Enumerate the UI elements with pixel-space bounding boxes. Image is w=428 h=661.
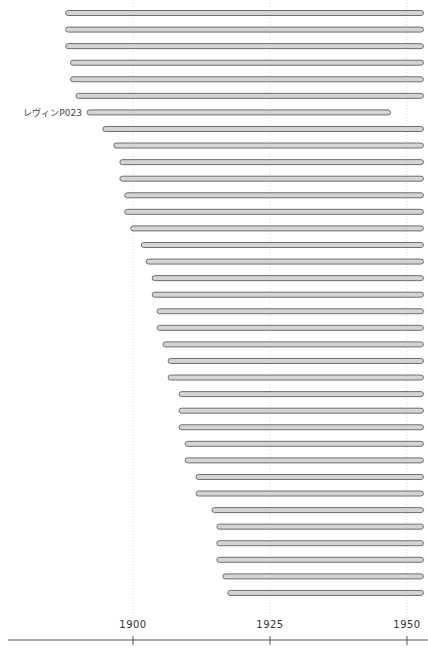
range-bar xyxy=(228,590,424,595)
timeline-chart: レヴィンP023 190019251950 xyxy=(0,0,428,661)
range-bar xyxy=(87,110,391,115)
range-bar xyxy=(196,491,423,496)
bar-label: レヴィンP023 xyxy=(23,107,82,118)
range-bar xyxy=(179,392,423,397)
range-bar xyxy=(71,77,424,82)
range-bar xyxy=(179,408,423,413)
range-bar xyxy=(217,524,424,529)
range-bar xyxy=(71,60,424,65)
range-bar xyxy=(163,342,423,347)
x-axis: 190019251950 xyxy=(8,619,428,645)
range-bar xyxy=(66,27,424,32)
range-bar xyxy=(76,93,423,98)
range-bar xyxy=(141,242,423,247)
range-bar xyxy=(196,474,423,479)
range-bar xyxy=(152,276,423,281)
bar-labels: レヴィンP023 xyxy=(23,107,82,118)
x-tick-label: 1950 xyxy=(393,619,420,630)
range-bar xyxy=(157,309,423,314)
range-bar xyxy=(66,11,424,16)
range-bar xyxy=(114,143,424,148)
range-bar xyxy=(217,557,424,562)
x-tick-label: 1900 xyxy=(119,619,146,630)
range-bar xyxy=(185,441,423,446)
range-bar xyxy=(168,375,423,380)
range-bar xyxy=(152,292,423,297)
bars xyxy=(66,11,424,596)
x-tick-label: 1925 xyxy=(256,619,283,630)
range-bar xyxy=(125,193,424,198)
range-bar xyxy=(131,226,424,231)
range-bar xyxy=(157,325,423,330)
range-bar xyxy=(185,458,423,463)
range-bar xyxy=(168,358,423,363)
range-bar xyxy=(66,44,424,49)
range-bar xyxy=(120,176,424,181)
range-bar xyxy=(146,259,423,264)
range-bar xyxy=(103,126,424,131)
range-bar xyxy=(120,160,424,165)
range-bar xyxy=(125,209,424,214)
range-bar xyxy=(223,574,424,579)
range-bar xyxy=(212,508,424,513)
range-bar xyxy=(179,425,423,430)
range-bar xyxy=(217,541,424,546)
